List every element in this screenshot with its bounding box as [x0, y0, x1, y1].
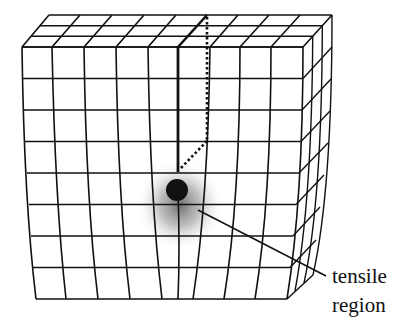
front-face-grid — [22, 47, 303, 299]
leader-line — [198, 210, 326, 276]
side-face-grid — [287, 15, 332, 299]
particle — [166, 179, 188, 201]
annotation-label-line1: tensile — [332, 264, 387, 289]
annotation-label-line2: region — [332, 293, 386, 318]
top-face-grid — [22, 15, 332, 47]
